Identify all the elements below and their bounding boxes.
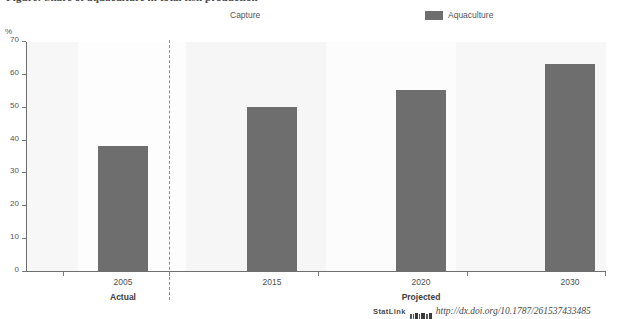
bar-aquaculture-2005[interactable] [98, 146, 148, 271]
y-tick-50: 50 [22, 107, 26, 108]
statlink-footer[interactable]: StatLink http://dx.doi.org/10.1787/26153… [373, 304, 591, 318]
legend-label-capture: Capture [230, 10, 260, 20]
y-tick-label-0: 0 [15, 265, 19, 274]
x-axis-label-2015: 2015 [232, 277, 312, 287]
y-tick-label-50: 50 [10, 101, 19, 110]
bar-aquaculture-2015[interactable] [247, 107, 297, 271]
legend-swatch-aquaculture-icon [425, 11, 443, 20]
page-title: Figure: Share of aquaculture in total fi… [6, 0, 258, 3]
bar-aquaculture-2030[interactable] [545, 64, 595, 271]
y-tick-label-20: 20 [10, 199, 19, 208]
barcode-icon [410, 307, 432, 315]
x-axis-label-2030: 2030 [530, 277, 610, 287]
y-tick-label-10: 10 [10, 232, 19, 241]
x-tick-3 [467, 272, 468, 276]
x-tick-4 [605, 272, 606, 276]
y-tick-0: 0 [22, 271, 26, 272]
x-axis-label-2020: 2020 [381, 277, 461, 287]
x-tick-2 [318, 272, 319, 276]
figure-title-clipped: Figure: Share of aquaculture in total fi… [0, 0, 621, 3]
y-tick-label-30: 30 [10, 166, 19, 175]
y-tick-60: 60 [22, 74, 26, 75]
legend-item-aquaculture[interactable]: Aquaculture [425, 8, 493, 22]
chart-legend: Capture Aquaculture [0, 8, 621, 22]
y-tick-20: 20 [22, 205, 26, 206]
x-axis-label-2005: 2005 [83, 277, 163, 287]
y-tick-label-40: 40 [10, 134, 19, 143]
legend-swatch-capture-icon [207, 11, 225, 20]
y-axis-line [26, 42, 27, 272]
legend-label-aquaculture: Aquaculture [448, 10, 493, 20]
plot-area: 70 60 50 40 30 20 10 0 [26, 42, 606, 272]
y-tick-40: 40 [22, 140, 26, 141]
x-axis-group-label-projected: Projected [371, 292, 471, 302]
statlink-url[interactable]: http://dx.doi.org/10.1787/261537433485 [436, 306, 591, 316]
x-axis-group-label-actual: Actual [73, 292, 173, 302]
x-tick-0 [63, 272, 64, 276]
y-tick-label-60: 60 [10, 68, 19, 77]
y-tick-70: 70 [22, 41, 26, 42]
statlink-word: StatLink [373, 307, 406, 316]
legend-item-capture[interactable]: Capture [207, 8, 260, 22]
y-tick-10: 10 [22, 238, 26, 239]
bar-aquaculture-2020[interactable] [396, 90, 446, 271]
x-axis-line [26, 271, 606, 272]
actual-projected-divider [169, 40, 170, 300]
y-tick-30: 30 [22, 172, 26, 173]
y-tick-label-70: 70 [10, 35, 19, 44]
